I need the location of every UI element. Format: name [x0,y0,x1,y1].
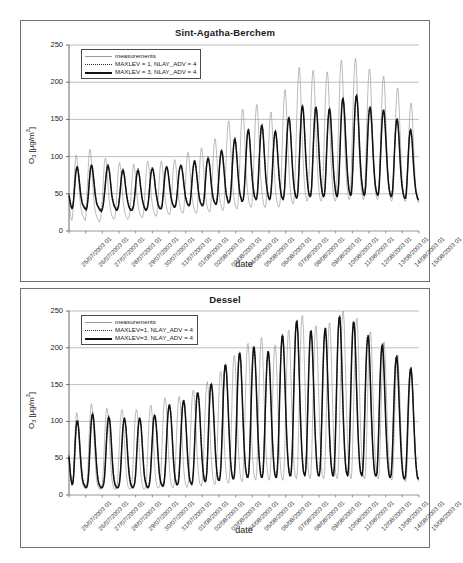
chart-legend: measurementsMAXLEV = 1, NLAY_ADV = 4MAXL… [81,49,201,79]
y-axis-tick-label: 250 [37,40,63,49]
y-axis-tick-label: 100 [37,152,63,161]
legend-item-maxlev1: MAXLEV=1, NLAY_ADV = 4 [85,326,193,334]
y-axis-tick-label: 100 [37,416,63,425]
legend-swatch-maxlev1 [85,60,112,68]
plot-area-1: 050100150200250O3 [µg/m3]25/07/2003 0126… [21,21,429,281]
y-axis-tick-label: 50 [37,189,63,198]
legend-swatch-measurements [85,318,112,326]
legend-item-measurements: measurements [85,318,193,326]
legend-item-maxlev3: MAXLEV=3, NLAY_ADV = 4 [85,334,193,342]
legend-swatch-maxlev3 [85,334,112,342]
y-axis-tick-label: 0 [37,226,63,235]
legend-label: MAXLEV = 3, NLAY_ADV = 4 [115,68,196,76]
y-axis-tick-label: 200 [37,343,63,352]
y-axis-tick-label: 150 [37,114,63,123]
y-axis-tick-label: 250 [37,306,63,315]
legend-item-measurements: measurements [85,52,196,60]
y-axis-tick-label: 50 [37,453,63,462]
x-axis-title: date [69,259,419,269]
legend-item-maxlev3: MAXLEV = 3, NLAY_ADV = 4 [85,68,196,76]
series-line [69,96,419,212]
legend-item-maxlev1: MAXLEV = 1, NLAY_ADV = 4 [85,60,196,68]
legend-swatch-measurements [85,52,112,60]
legend-label: MAXLEV=1, NLAY_ADV = 4 [115,326,193,334]
legend-label: MAXLEV = 1, NLAY_ADV = 4 [115,60,196,68]
legend-swatch-maxlev3 [85,68,112,76]
legend-label: measurements [115,318,156,326]
y-axis-tick-label: 200 [37,77,63,86]
legend-label: MAXLEV=3, NLAY_ADV = 4 [115,334,193,342]
legend-label: measurements [115,52,156,60]
chart-legend: measurementsMAXLEV=1, NLAY_ADV = 4MAXLEV… [81,315,198,345]
x-axis-title: date [69,525,419,535]
y-axis-title: O3 [µg/m3] [25,127,37,164]
page-header [10,1,210,9]
y-axis-tick-label: 0 [37,490,63,499]
legend-swatch-maxlev1 [85,326,112,334]
y-axis-title: O3 [µg/m3] [25,392,37,429]
plot-area-2: 050100150200250O3 [µg/m3]25/07/2003 0126… [21,289,429,547]
chart-panel-sint-agatha-berchem: Sint-Agatha-Berchem 050100150200250O3 [µ… [20,20,430,282]
y-axis-tick-label: 150 [37,380,63,389]
chart-panel-dessel: Dessel 050100150200250O3 [µg/m3]25/07/20… [20,288,430,548]
